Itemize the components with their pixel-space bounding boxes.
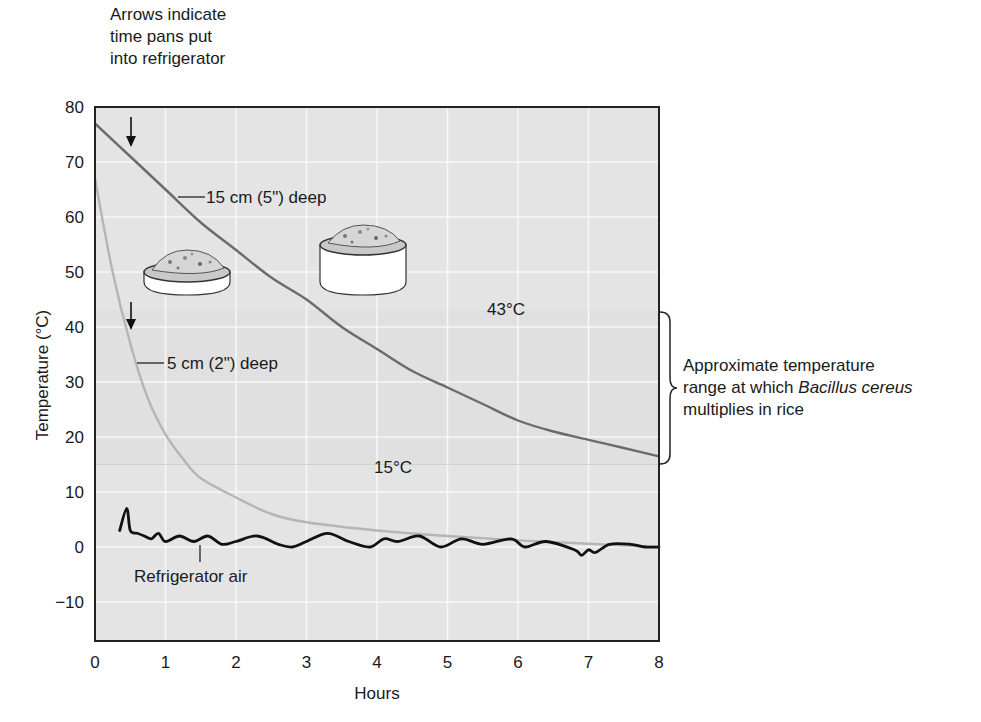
arrows-note-line-1: Arrows indicate: [110, 4, 226, 26]
x-axis-label: Hours: [354, 684, 399, 703]
y-tick-label: 30: [65, 373, 84, 392]
range-brace-icon: [660, 312, 677, 464]
bracket-note: Approximate temperature range at which B…: [683, 355, 913, 421]
bracket-note-line-2-text: range at which: [683, 378, 798, 397]
y-axis-label: Temperature (°C): [33, 310, 52, 441]
label-15cm: 15 cm (5") deep: [206, 188, 326, 207]
x-tick-label: 5: [443, 653, 452, 672]
y-tick-label: 0: [75, 538, 84, 557]
y-tick-label: 50: [65, 263, 84, 282]
x-tick-label: 0: [90, 653, 99, 672]
x-tick-label: 3: [302, 653, 311, 672]
arrows-note-line-3: into refrigerator: [110, 48, 226, 70]
bracket-note-line-2: range at which Bacillus cereus: [683, 377, 913, 399]
x-tick-label: 2: [231, 653, 240, 672]
y-tick-label: −10: [55, 593, 84, 612]
label-15c: 15°C: [374, 458, 412, 477]
y-axis-ticks: 80706050403020100−10: [55, 98, 84, 612]
x-tick-label: 4: [372, 653, 381, 672]
label-43c: 43°C: [487, 300, 525, 319]
label-air: Refrigerator air: [134, 567, 248, 586]
bacillus-cereus-italic: Bacillus cereus: [798, 378, 912, 397]
arrows-note-line-2: time pans put: [110, 26, 226, 48]
y-tick-label: 40: [65, 318, 84, 337]
y-tick-label: 60: [65, 208, 84, 227]
arrows-note: Arrows indicate time pans put into refri…: [110, 4, 226, 70]
label-5cm: 5 cm (2") deep: [167, 354, 278, 373]
x-tick-label: 1: [161, 653, 170, 672]
x-tick-label: 6: [513, 653, 522, 672]
bracket-note-line-3: multiplies in rice: [683, 399, 913, 421]
y-tick-label: 80: [65, 98, 84, 117]
y-tick-label: 70: [65, 153, 84, 172]
x-tick-label: 8: [654, 653, 663, 672]
y-tick-label: 10: [65, 483, 84, 502]
y-tick-label: 20: [65, 428, 84, 447]
bracket-note-line-1: Approximate temperature: [683, 355, 913, 377]
x-tick-label: 7: [584, 653, 593, 672]
x-axis-ticks: 012345678: [90, 653, 663, 672]
